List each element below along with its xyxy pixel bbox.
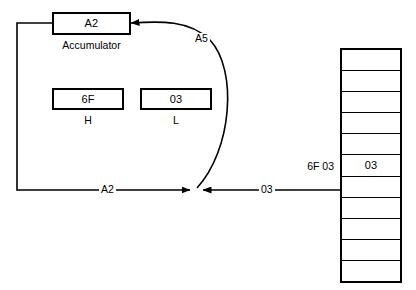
memory-cell: [342, 219, 400, 240]
accumulator-box: A2: [52, 12, 131, 35]
memory-cell: [342, 240, 400, 261]
memory-address-label: 6F 03: [290, 161, 334, 172]
memory-cell: [342, 261, 400, 281]
memory-cell-value: 03: [365, 160, 378, 171]
register-l-box: 03: [140, 88, 212, 110]
memory-cell-addressed: 03: [342, 155, 400, 176]
memory-cell: [342, 134, 400, 155]
memory-column: 03: [340, 48, 402, 283]
memory-cell: [342, 50, 400, 71]
memory-path-label-03: 03: [259, 184, 275, 195]
register-l-value: 03: [170, 94, 183, 105]
memory-cell: [342, 198, 400, 219]
memory-cell: [342, 177, 400, 198]
register-h-caption: H: [52, 115, 124, 126]
memory-cell: [342, 92, 400, 113]
diagram-canvas: A2 Accumulator 6F H 03 L A5 A2 03 6F 03 …: [0, 0, 416, 290]
memory-cell: [342, 113, 400, 134]
register-l-caption: L: [140, 115, 212, 126]
register-h-value: 6F: [81, 94, 94, 105]
accumulator-caption: Accumulator: [52, 40, 131, 51]
curve-label-a5: A5: [193, 33, 210, 44]
register-h-box: 6F: [52, 88, 124, 110]
memory-cell: [342, 71, 400, 92]
accumulator-value: A2: [85, 18, 99, 29]
left-path-label-a2: A2: [99, 184, 116, 195]
